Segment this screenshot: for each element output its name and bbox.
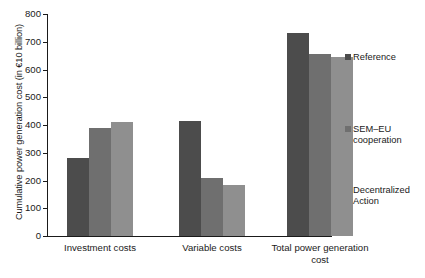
y-axis-tick-mark	[43, 97, 47, 98]
bar	[309, 54, 331, 236]
legend-item[interactable]: SEM–EU cooperation	[345, 124, 402, 145]
y-axis-tick-mark	[43, 70, 47, 71]
y-axis-tick-label: 600	[13, 64, 41, 75]
y-axis-tick-mark	[43, 153, 47, 154]
legend-swatch-icon	[345, 126, 351, 132]
legend-item[interactable]: Decentralized Action	[345, 185, 410, 206]
bar	[331, 57, 353, 236]
y-axis-tick-label: 500	[13, 91, 41, 102]
bar	[287, 33, 309, 236]
y-axis-tick-label: 100	[13, 202, 41, 213]
y-axis-tick-mark	[43, 236, 47, 237]
bar-group	[287, 14, 353, 236]
y-axis-tick-mark	[43, 42, 47, 43]
bar-group	[179, 14, 245, 236]
y-axis-tick-mark	[43, 181, 47, 182]
y-axis-tick-label: 400	[13, 119, 41, 130]
x-axis-tick-label: Investment costs	[35, 242, 165, 254]
bar-chart-figure: Cumulative power generation cost (in €10…	[0, 0, 425, 278]
bar	[67, 158, 89, 236]
bar	[179, 121, 201, 236]
y-axis-tick-mark	[43, 14, 47, 15]
y-axis-tick-label: 300	[13, 147, 41, 158]
y-axis-tick-label: 800	[13, 8, 41, 19]
bar	[201, 178, 223, 236]
bar	[89, 128, 111, 236]
y-axis-tick-mark	[43, 125, 47, 126]
y-axis-tick-label: 700	[13, 36, 41, 47]
y-axis-line	[47, 14, 48, 237]
legend-swatch-icon	[345, 54, 351, 60]
plot-area: 8007006005004003002001000 Investment cos…	[47, 14, 332, 237]
bar-group	[67, 14, 133, 236]
y-axis-tick-mark	[43, 208, 47, 209]
legend-label: Decentralized Action	[353, 185, 410, 206]
bar	[223, 185, 245, 236]
bar	[111, 122, 133, 236]
legend-label: Reference	[353, 52, 396, 63]
legend-item[interactable]: Reference	[345, 52, 396, 63]
x-axis-line	[47, 236, 332, 237]
y-axis-tick-label: 200	[13, 175, 41, 186]
x-axis-tick-label: Total power generation cost	[255, 242, 385, 265]
y-axis-tick-label: 0	[13, 230, 41, 241]
legend-swatch-icon	[345, 187, 351, 193]
legend-label: SEM–EU cooperation	[353, 124, 402, 145]
